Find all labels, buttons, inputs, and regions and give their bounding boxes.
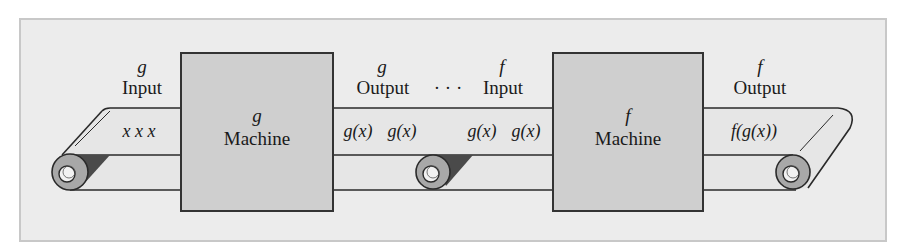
- g-output-label: Output: [348, 78, 418, 97]
- g-machine-label: Machine: [212, 129, 302, 148]
- f-output-var: f: [738, 57, 782, 76]
- f-machine-label: Machine: [583, 129, 673, 148]
- g-output-item-1: g(x): [338, 122, 378, 140]
- g-input-var: g: [120, 57, 164, 76]
- g-input-items: x x x: [108, 122, 170, 140]
- g-output-item-2: g(x): [382, 122, 422, 140]
- f-input-var: f: [480, 57, 524, 76]
- g-output-var: g: [360, 57, 404, 76]
- composition-diagram: g Input x x x g Machine g Output g(x) g(…: [0, 0, 908, 251]
- f-input-item-1: g(x): [462, 122, 502, 140]
- f-machine-var: f: [598, 106, 658, 125]
- f-input-item-2: g(x): [506, 122, 546, 140]
- ellipsis: · · ·: [428, 78, 468, 97]
- f-output-items: f(g(x)): [722, 122, 786, 140]
- f-input-label: Input: [474, 78, 532, 97]
- g-input-label: Input: [112, 78, 172, 97]
- g-machine-var: g: [227, 106, 287, 125]
- f-output-label: Output: [724, 78, 796, 97]
